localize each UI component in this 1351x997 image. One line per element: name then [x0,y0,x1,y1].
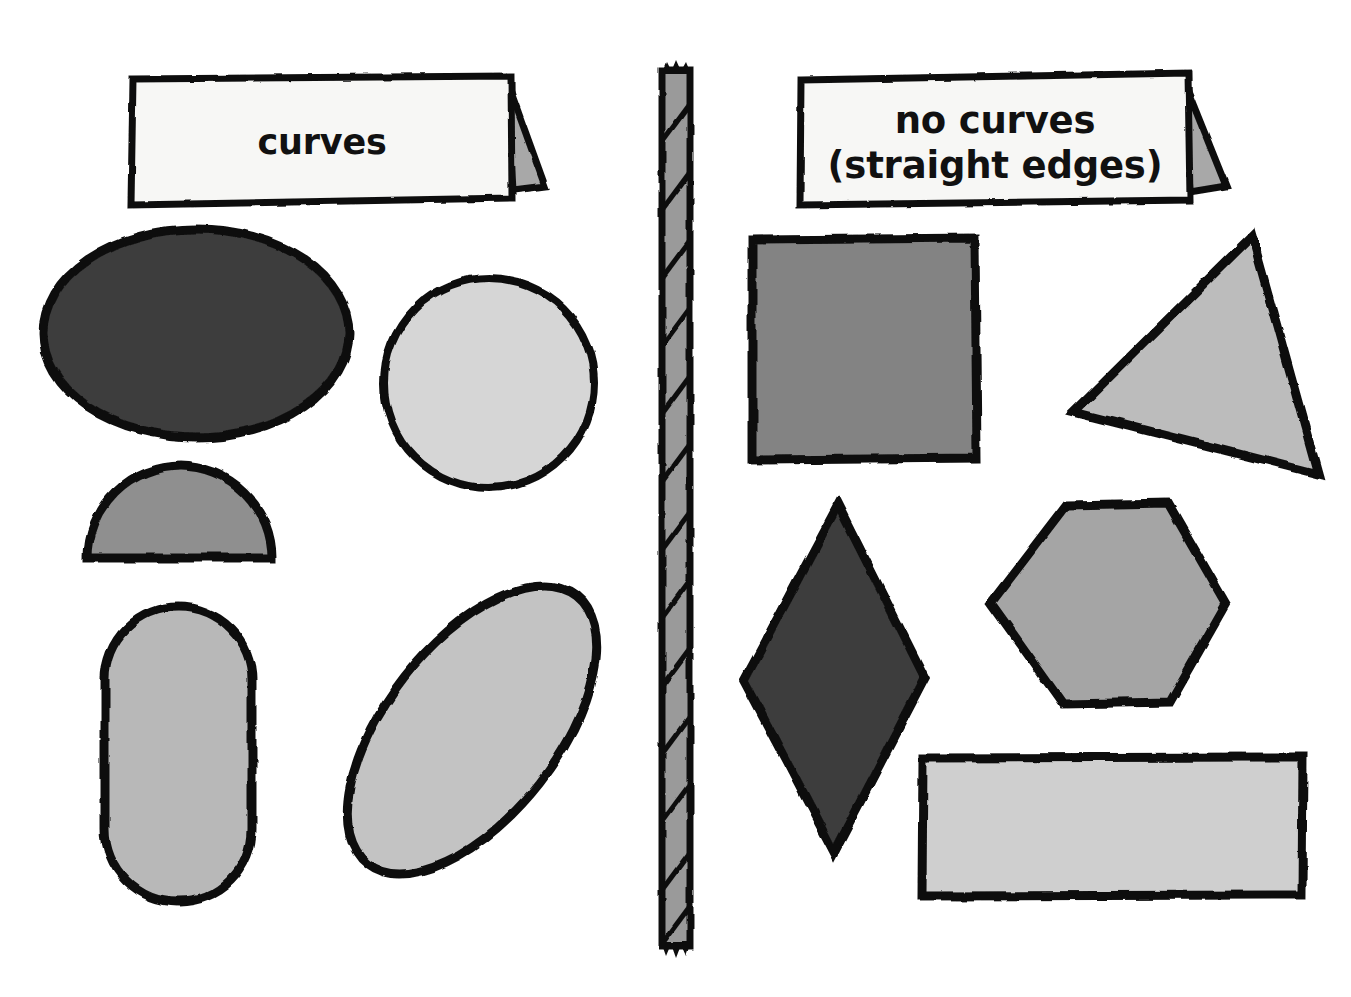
shape-rhombus [744,505,925,852]
shape-semicircle [88,466,272,558]
shape-rectangle [922,757,1303,896]
no-curves-heading-card: no curves (straight edges) [800,73,1226,205]
curves-heading-card: curves [131,76,545,205]
poster-canvas: curves no curves (straight edges) [0,0,1351,997]
shape-hexagon [991,503,1226,704]
shape-ellipse [43,229,349,437]
no-curves-card-label-line2: (straight edges) [828,144,1163,187]
shape-sorting-poster: curves no curves (straight edges) [0,0,1351,997]
rope-frayed-bottom [661,942,691,958]
rope-divider [656,60,696,958]
shape-triangle [1074,236,1318,474]
rope-frayed-top [661,60,691,74]
shape-oval-tilted [300,543,645,917]
left-column-shapes [43,229,644,917]
right-column-shapes [744,236,1318,896]
no-curves-card-label-line1: no curves [895,99,1096,142]
shape-stadium [105,607,252,902]
shape-circle [384,278,594,488]
curves-card-label: curves [257,122,386,162]
shape-square [752,238,977,460]
